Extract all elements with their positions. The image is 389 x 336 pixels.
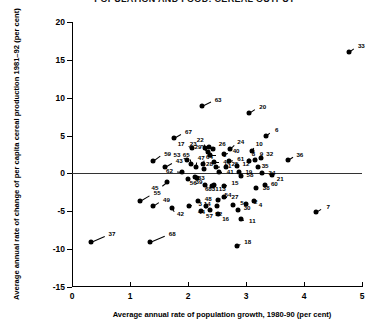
- label-leader-line: [205, 206, 206, 208]
- data-point-label: 65: [183, 151, 190, 158]
- label-leader-line: [177, 171, 182, 172]
- x-tick-label: 3: [244, 291, 249, 301]
- data-point-label: 67: [185, 127, 192, 134]
- label-leader-line: [224, 185, 227, 187]
- y-axis-line: [72, 22, 73, 287]
- label-leader-line: [219, 172, 222, 173]
- data-point-label: 45: [152, 183, 159, 190]
- label-leader-line: [224, 153, 229, 155]
- label-leader-line: [256, 188, 258, 189]
- x-tick-label: 5: [360, 291, 365, 301]
- data-point-label: 16: [222, 214, 229, 221]
- x-tick: [130, 282, 131, 287]
- x-tick: [72, 282, 73, 287]
- data-point[interactable]: [239, 173, 244, 178]
- y-tick-label: 10: [56, 93, 65, 103]
- label-leader-line: [246, 203, 248, 204]
- data-point-label: 15: [231, 179, 238, 186]
- data-point-label: 49: [163, 195, 170, 202]
- label-leader-line: [140, 195, 150, 201]
- data-point-label: 7: [327, 202, 330, 209]
- label-leader-line: [254, 201, 255, 202]
- data-point-label: 35: [262, 161, 269, 168]
- data-point-label: 26: [219, 139, 226, 146]
- data-point-label: 24: [237, 138, 244, 145]
- label-leader-line: [210, 155, 216, 156]
- data-point-label: 33: [198, 173, 205, 180]
- label-leader-line: [215, 205, 217, 207]
- data-point[interactable]: [202, 166, 207, 171]
- y-tick: [67, 249, 72, 250]
- x-tick-label: 0: [70, 291, 75, 301]
- data-point-label: 63: [215, 95, 222, 102]
- chart-title: POPULATION AND FOOD: CEREAL OUTPUT: [0, 0, 389, 4]
- x-tick: [362, 282, 363, 287]
- y-tick: [67, 211, 72, 212]
- data-point-label: 68: [205, 185, 212, 192]
- y-tick: [67, 173, 72, 174]
- y-tick: [67, 98, 72, 99]
- chart-root: POPULATION AND FOOD: CEREAL OUTPUT Avera…: [0, 0, 389, 336]
- y-tick: [67, 22, 72, 23]
- data-point-label: 36: [296, 150, 303, 157]
- label-leader-line: [241, 219, 244, 221]
- x-tick: [304, 282, 305, 287]
- data-point-label: 37: [109, 230, 116, 237]
- y-tick: [67, 60, 72, 61]
- data-point-label: 42: [177, 210, 184, 217]
- data-point-label: 6: [275, 125, 278, 132]
- x-tick-label: 1: [128, 291, 133, 301]
- data-point-label: 27: [231, 192, 238, 199]
- label-leader-line: [216, 166, 220, 167]
- data-point-label: 40: [233, 147, 240, 154]
- x-tick-label: 4: [302, 291, 307, 301]
- data-point-label: 58: [247, 170, 254, 177]
- y-tick-label: -15: [53, 282, 65, 292]
- y-tick-label: -10: [53, 244, 65, 254]
- y-tick-label: 20: [56, 17, 65, 27]
- label-leader-line: [214, 162, 219, 163]
- label-leader-line: [224, 197, 227, 198]
- data-point-label: 10: [256, 139, 263, 146]
- data-point-label: 33: [358, 42, 365, 49]
- y-axis-label-text: Average annual rate of change of per cap…: [12, 9, 22, 301]
- data-point-label: 32: [266, 149, 273, 156]
- y-tick-label: 0: [60, 168, 65, 178]
- y-tick: [67, 136, 72, 137]
- x-tick: [246, 282, 247, 287]
- data-point-label: 8: [252, 149, 255, 156]
- data-point-label: 53: [174, 151, 181, 158]
- data-point-label: 57: [206, 211, 213, 218]
- data-point-label: 17: [178, 139, 185, 146]
- y-tick-label: 15: [56, 55, 65, 65]
- x-tick-label: 2: [186, 291, 191, 301]
- data-point-label: 59: [164, 149, 171, 156]
- data-point-label: 47: [198, 153, 205, 160]
- x-tick: [188, 282, 189, 287]
- y-tick-label: 5: [60, 131, 65, 141]
- data-point-label: 62: [166, 167, 173, 174]
- plot-area: -15-10-505101520 012345 3768554959434542…: [72, 22, 362, 287]
- label-leader-line: [150, 236, 165, 243]
- x-axis-label: Average annual rate of population growth…: [72, 310, 372, 319]
- x-axis-line: [72, 286, 362, 287]
- data-point-label: 38: [263, 183, 270, 190]
- label-leader-line: [202, 102, 211, 107]
- data-point-label: 20: [259, 102, 266, 109]
- y-axis-label: Average annual rate of change of per cap…: [6, 22, 28, 287]
- data-point-label: 23: [190, 139, 197, 146]
- data-point-label: 4: [259, 201, 262, 208]
- data-point-label: 68: [169, 230, 176, 237]
- data-point-label: 18: [244, 237, 251, 244]
- y-tick: [67, 287, 72, 288]
- data-point[interactable]: [255, 165, 260, 170]
- y-tick-label: -5: [57, 206, 65, 216]
- data-point-label: 14: [204, 199, 211, 206]
- label-leader-line: [153, 156, 161, 162]
- data-point-label: 60: [271, 180, 278, 187]
- data-point-label: 11: [249, 217, 256, 224]
- data-point-label: 41: [227, 167, 234, 174]
